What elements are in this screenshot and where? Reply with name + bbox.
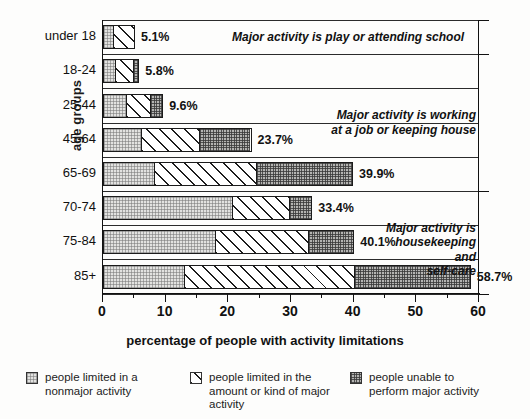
bar-value-label: 33.4%: [318, 196, 353, 220]
x-tick-label: 40: [333, 303, 373, 319]
x-tick-minor: [447, 293, 448, 298]
bar-segment-light: [104, 95, 126, 117]
group-bracket: [478, 20, 492, 293]
row-separator: [103, 157, 479, 158]
bar-value-label: 5.8%: [145, 59, 174, 83]
bar-segment-light: [104, 129, 141, 151]
x-tick-major: [415, 293, 416, 302]
bar-segment-hatch: [126, 95, 150, 117]
bar-segment-dark: [308, 231, 353, 253]
annotation-3: Major activity is housekeeping and self-…: [380, 221, 476, 279]
bar-segment-dark: [199, 129, 251, 151]
bar-segment-light: [104, 163, 154, 185]
category-label-under-18: under 18: [4, 29, 96, 43]
category-label-45-64: 45-64: [4, 132, 96, 146]
category-label-85-: 85+: [4, 269, 96, 283]
bar-value-label: 39.9%: [359, 162, 394, 186]
bar-25-44: [103, 94, 163, 118]
bar-segment-hatch: [113, 26, 134, 48]
legend-swatch-hatch: [190, 372, 202, 384]
x-tick-minor: [384, 293, 385, 298]
legend-label: people limited in the amount or kind of …: [209, 371, 330, 412]
bar-segment-light: [104, 231, 215, 253]
row-separator: [103, 20, 479, 21]
bar-65-69: [103, 162, 353, 186]
x-tick-label: 20: [207, 303, 247, 319]
bar-segment-dark: [150, 95, 162, 117]
bracket-tick: [478, 191, 489, 192]
bar-segment-hatch: [154, 163, 256, 185]
x-tick-label: 60: [458, 303, 498, 319]
bar-value-label: 9.6%: [169, 94, 198, 118]
x-tick-major: [227, 293, 228, 302]
x-tick-minor: [196, 293, 197, 298]
legend-item-3: people unable to perform major activity: [350, 371, 510, 398]
bracket-tick: [478, 20, 489, 21]
bar-segment-dark: [133, 60, 138, 82]
bar-18-24: [103, 59, 139, 83]
legend: people limited in a nonmajor activitypeo…: [0, 371, 530, 419]
category-label-18-24: 18-24: [4, 63, 96, 77]
x-axis: 0102030405060: [102, 293, 480, 294]
bar-under-18: [103, 25, 135, 49]
x-axis-line: [102, 293, 480, 294]
x-axis-title: percentage of people with activity limit…: [0, 333, 530, 348]
x-tick-major: [165, 293, 166, 302]
bar-segment-light: [104, 266, 184, 288]
category-label-75-84: 75-84: [4, 234, 96, 248]
bar-segment-dark: [256, 163, 352, 185]
category-label-25-44: 25-44: [4, 98, 96, 112]
x-tick-minor: [259, 293, 260, 298]
row-separator: [103, 88, 479, 89]
x-tick-major: [102, 293, 103, 302]
bar-segment-hatch: [115, 60, 133, 82]
x-tick-label: 0: [82, 303, 122, 319]
bar-segment-hatch: [215, 231, 308, 253]
bar-value-label: 23.7%: [258, 128, 293, 152]
bar-segment-hatch: [232, 197, 288, 219]
x-tick-label: 50: [395, 303, 435, 319]
bar-segment-hatch: [184, 266, 354, 288]
bar-45-64: [103, 128, 252, 152]
category-label-70-74: 70-74: [4, 200, 96, 214]
x-tick-label: 30: [270, 303, 310, 319]
legend-item-1: people limited in a nonmajor activity: [26, 371, 176, 398]
x-tick-label: 10: [145, 303, 185, 319]
legend-label: people limited in a nonmajor activity: [45, 371, 138, 398]
legend-label: people unable to perform major activity: [369, 371, 479, 398]
x-tick-major: [353, 293, 354, 302]
legend-swatch-light: [26, 372, 38, 384]
category-label-65-69: 65-69: [4, 166, 96, 180]
row-separator: [103, 191, 479, 192]
bracket-tick: [478, 54, 489, 55]
bar-75-84: [103, 230, 354, 254]
bar-segment-hatch: [141, 129, 198, 151]
row-separator: [103, 54, 479, 55]
bar-segment-light: [104, 197, 232, 219]
activity-limitations-bar-chart: age groups under 1818-2425-4445-6465-697…: [0, 0, 530, 419]
category-label-group: under 1818-2425-4445-6465-6970-7475-8485…: [0, 20, 96, 293]
bar-70-74: [103, 196, 312, 220]
x-tick-major: [478, 293, 479, 302]
x-tick-minor: [321, 293, 322, 298]
bar-segment-light: [104, 60, 115, 82]
annotation-1: Major activity is play or attending scho…: [232, 30, 476, 45]
bar-segment-dark: [289, 197, 311, 219]
legend-item-2: people limited in the amount or kind of …: [190, 371, 350, 412]
x-tick-minor: [133, 293, 134, 298]
x-tick-major: [290, 293, 291, 302]
bracket-spine: [478, 20, 479, 293]
bar-segment-light: [104, 26, 113, 48]
annotation-2: Major activity is working at a job or ke…: [328, 108, 476, 137]
legend-swatch-dark: [350, 372, 362, 384]
bar-value-label: 5.1%: [141, 25, 170, 49]
